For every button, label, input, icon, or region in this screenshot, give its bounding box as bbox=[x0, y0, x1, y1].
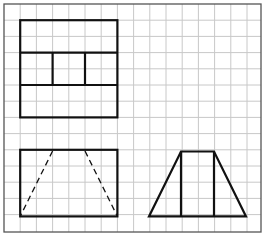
side-view-trapezoid bbox=[149, 152, 246, 217]
side-view bbox=[149, 152, 246, 217]
orthographic-views-diagram bbox=[0, 0, 264, 234]
